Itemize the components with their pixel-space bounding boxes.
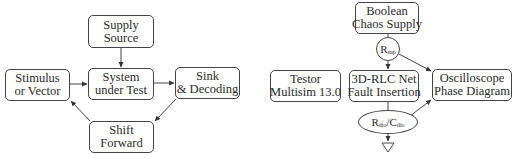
node-testor-multisim: Testor Multisim 13.0: [270, 70, 341, 102]
node-oscilloscope-phase: Oscilloscope Phase Diagram: [432, 69, 512, 101]
ground-icon: [382, 143, 394, 152]
node-r-sup: Rsup: [376, 37, 400, 61]
edge-rsup-to-oscilloscope: [399, 54, 431, 71]
node-label-line2: Phase Diagram: [434, 85, 510, 98]
node-label-line2: Fault Insertion: [347, 86, 420, 99]
node-label-line2: or Vector: [15, 85, 61, 98]
node-label-line2: Multisim 13.0: [270, 86, 341, 99]
node-shift-forward: Shift Forward: [89, 121, 154, 153]
node-r-c-dio: Rdio/Cdio: [358, 110, 418, 134]
node-supply-source: Supply Source: [88, 15, 154, 48]
node-stimulus-vector: Stimulus or Vector: [5, 69, 70, 101]
node-label-line2: & Decoding: [177, 83, 238, 96]
node-label-line2: Forward: [100, 137, 142, 150]
edge-sink-to-shift: [155, 99, 176, 121]
node-label-line2: under Test: [95, 84, 147, 97]
node-label-line2: Chaos Supply: [352, 18, 422, 31]
node-sink-decoding: Sink & Decoding: [175, 67, 240, 99]
node-3d-rlc-net: 3D-RLC Net Fault Insertion: [349, 70, 419, 102]
node-label-line2: Source: [104, 32, 139, 45]
r-sup-label: Rsup: [380, 43, 396, 55]
edge-shift-to-stimulus: [71, 101, 90, 121]
node-boolean-chaos-supply: Boolean Chaos Supply: [355, 2, 419, 34]
node-system-under-test: System under Test: [88, 68, 154, 100]
r-c-dio-label: Rdio/Cdio: [371, 116, 404, 128]
node-label-line1: Supply: [103, 19, 138, 32]
edge-rcdio-to-oscilloscope: [410, 100, 431, 116]
